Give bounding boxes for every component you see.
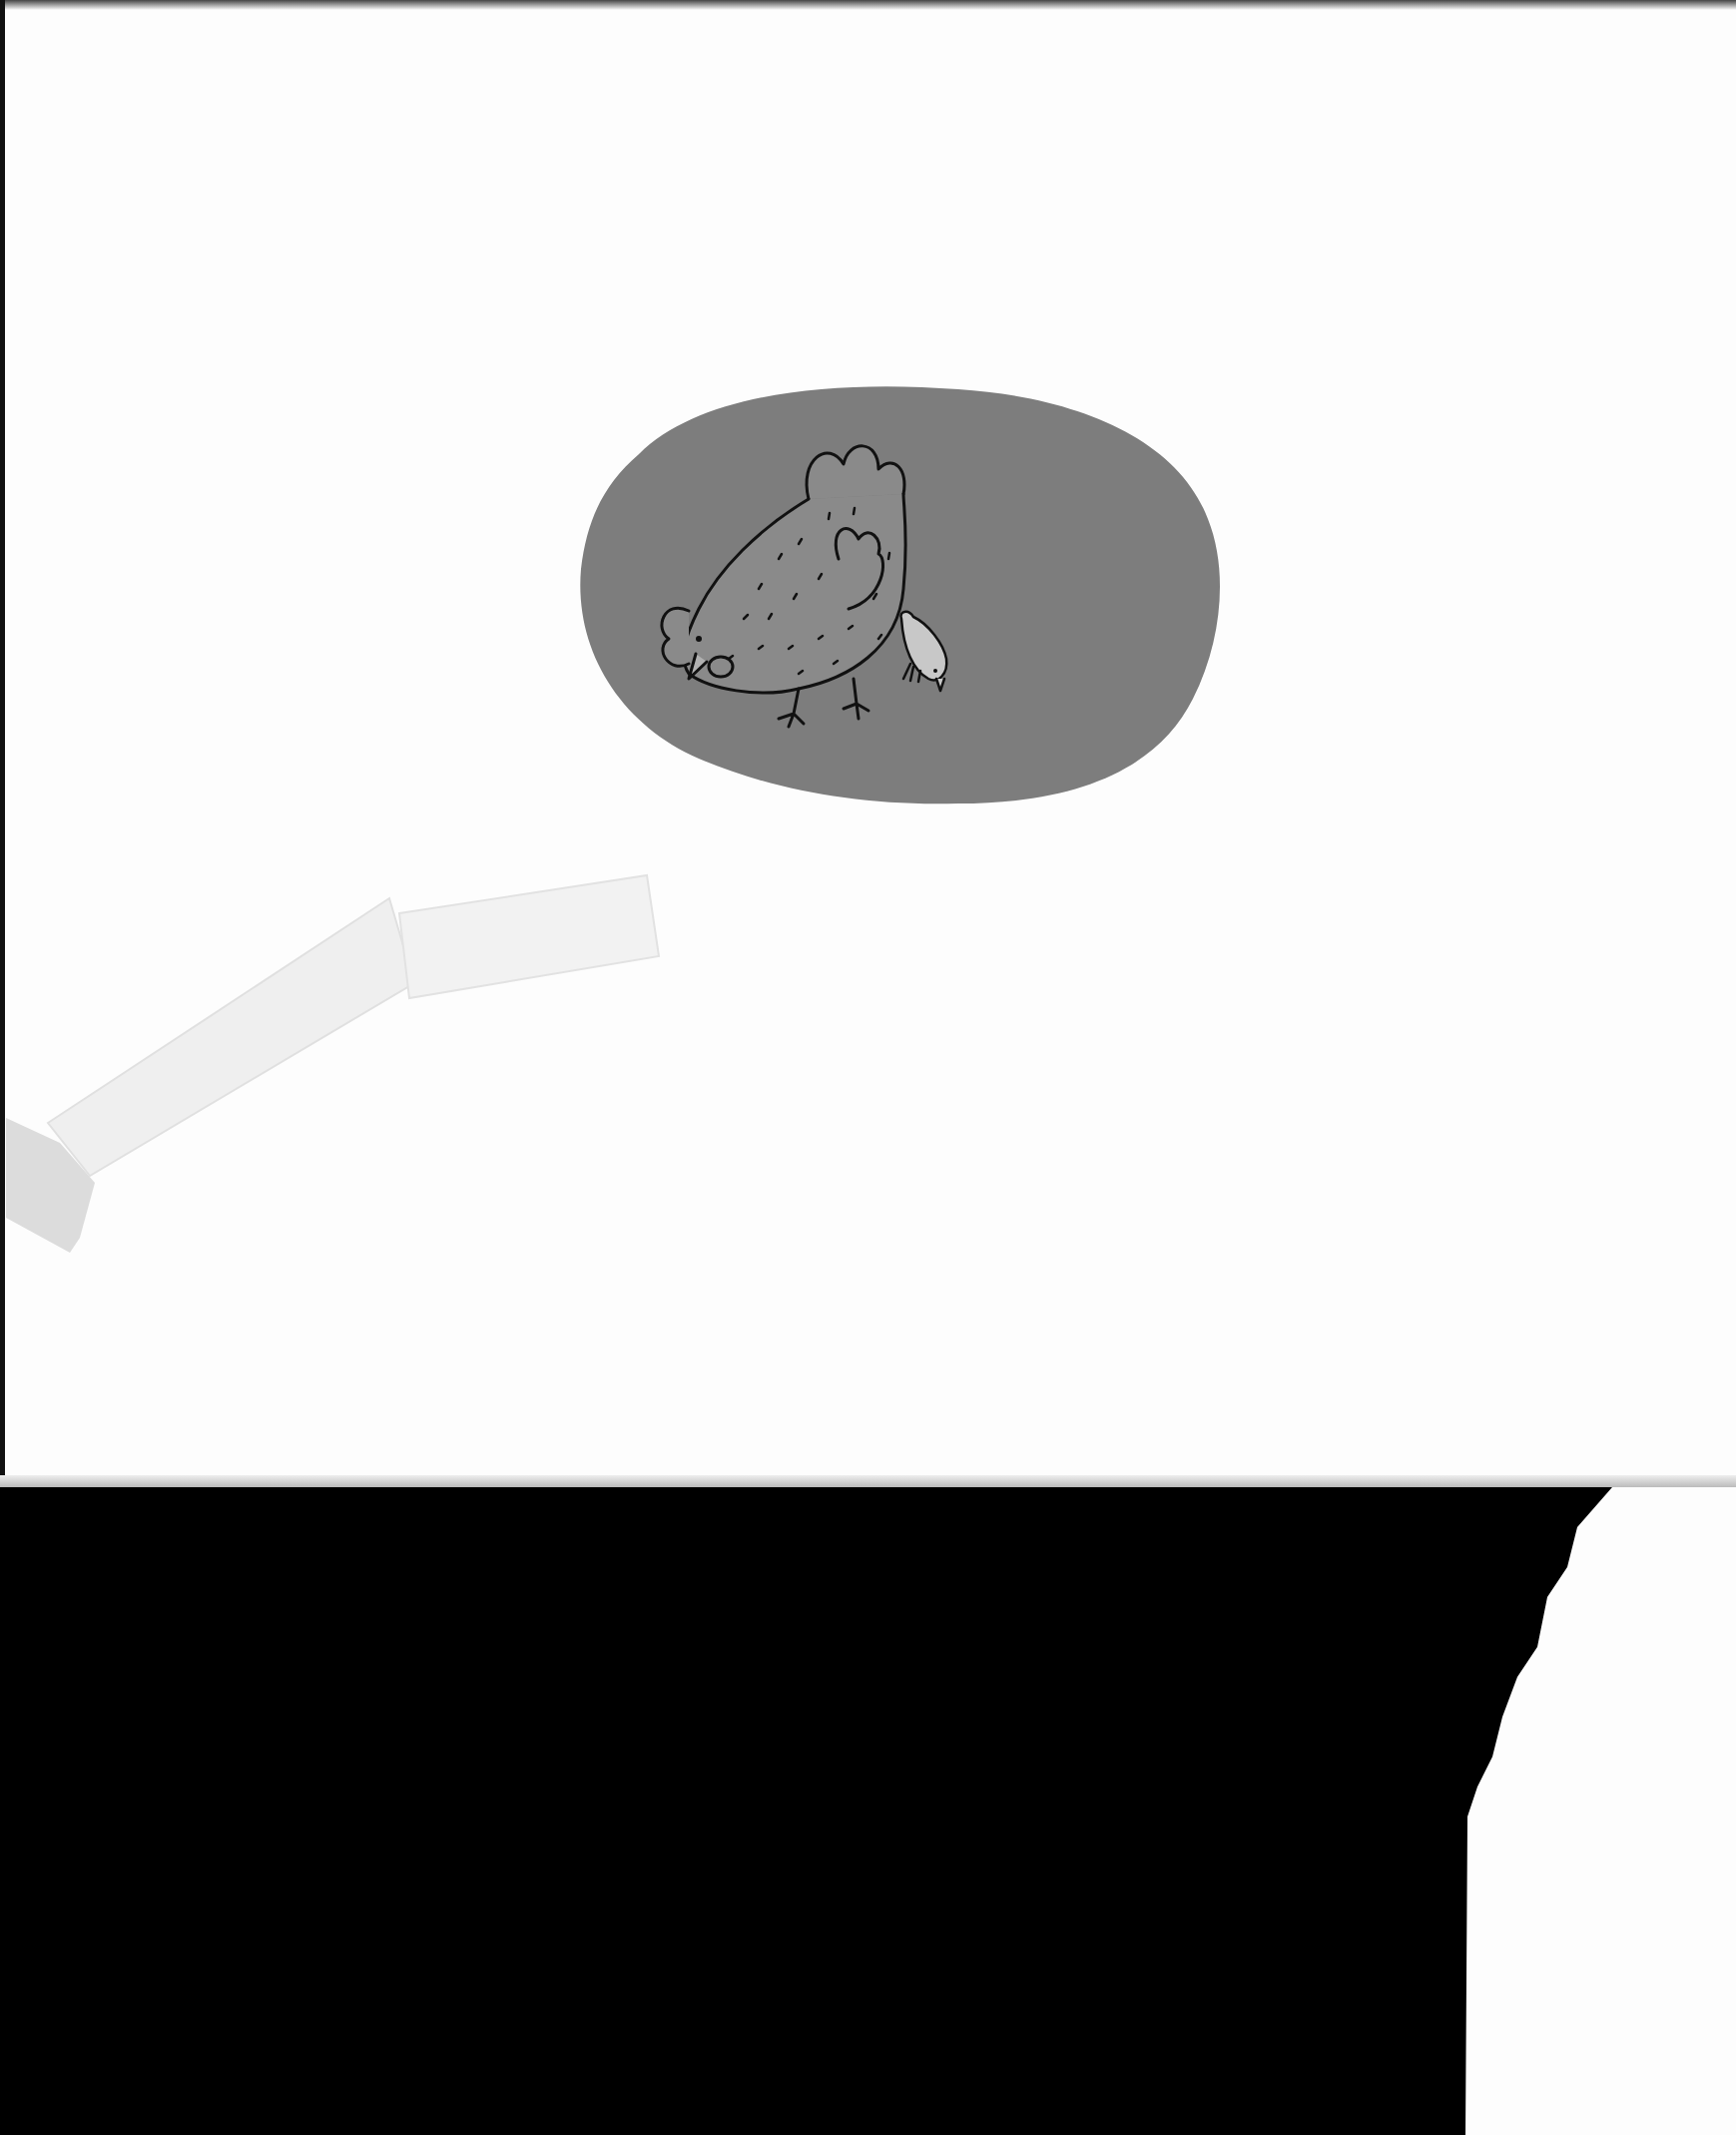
- masking-tape: [6, 875, 659, 1253]
- torn-paper-scrap: [1465, 1487, 1736, 2135]
- illustration: [0, 0, 1736, 2135]
